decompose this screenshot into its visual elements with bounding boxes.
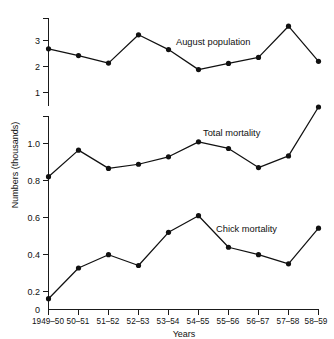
- y-tick-label-0-4: 0.4: [27, 250, 40, 260]
- data-point: [286, 153, 291, 158]
- data-point: [286, 261, 291, 266]
- data-point: [316, 59, 321, 64]
- data-point: [316, 104, 321, 109]
- annotation-total-mortality: Total mortality: [203, 128, 261, 138]
- data-point: [46, 46, 51, 51]
- x-tick-label-2: 51–52: [97, 317, 120, 326]
- y-tick-label-1: 1: [35, 88, 40, 98]
- data-point: [196, 213, 201, 218]
- august-population-markers: [46, 24, 321, 73]
- data-point: [196, 139, 201, 144]
- y-tick-label-3: 3: [35, 36, 40, 46]
- data-point: [166, 230, 171, 235]
- x-tick-label-3: 52–53: [127, 317, 150, 326]
- x-tick-labels: 1949–50 50–51 51–52 52–53 53–54 54–55 55…: [32, 317, 328, 326]
- x-tick-label-4: 53–54: [157, 317, 180, 326]
- data-point: [166, 47, 171, 52]
- x-axis-title: Years: [173, 329, 196, 339]
- y-tick-label-0-6: 0.6: [27, 213, 40, 223]
- y-tick-label-0-8: 0.8: [27, 176, 40, 186]
- x-tick-label-8: 57–58: [277, 317, 300, 326]
- data-point: [106, 61, 111, 66]
- data-point: [316, 226, 321, 231]
- data-point: [256, 165, 261, 170]
- data-point: [76, 265, 81, 270]
- x-axis-group: 1949–50 50–51 51–52 52–53 53–54 54–55 55…: [32, 310, 328, 339]
- data-point: [226, 146, 231, 151]
- series-total-mortality: [46, 104, 321, 179]
- line-chart-svg: 3 2 1 1.0 0.8 0.6 0.4 0.2 0: [0, 0, 334, 339]
- data-point: [286, 24, 291, 29]
- y-tick-label-0-2: 0.2: [27, 287, 40, 297]
- y-tick-label-1-0: 1.0: [27, 139, 40, 149]
- y-tick-label-2: 2: [35, 62, 40, 72]
- x-tick-label-1: 50–51: [67, 317, 90, 326]
- august-population-line: [49, 26, 319, 69]
- data-point: [46, 174, 51, 179]
- data-point: [136, 162, 141, 167]
- x-tick-label-7: 56–57: [247, 317, 270, 326]
- data-point: [226, 61, 231, 66]
- data-point: [136, 263, 141, 268]
- data-point: [76, 148, 81, 153]
- chick-mortality-line: [49, 216, 319, 299]
- total-mortality-line: [49, 107, 319, 177]
- series-chick-mortality: [46, 213, 321, 301]
- y-ticks-lower: 1.0 0.8 0.6 0.4 0.2 0: [27, 117, 48, 316]
- annotation-chick-mortality: Chick mortality: [216, 224, 277, 234]
- data-point: [136, 32, 141, 37]
- data-point: [226, 245, 231, 250]
- data-point: [196, 67, 201, 72]
- data-point: [46, 296, 51, 301]
- series-august-population: [46, 24, 321, 73]
- data-point: [106, 252, 111, 257]
- series-annotations: August population Total mortality Chick …: [176, 37, 277, 234]
- data-point: [76, 53, 81, 58]
- chick-mortality-markers: [46, 213, 321, 301]
- y-ticks-upper: 3 2 1: [35, 19, 49, 99]
- data-point: [256, 55, 261, 60]
- x-tick-label-0: 1949–50: [32, 317, 64, 326]
- total-mortality-markers: [46, 104, 321, 179]
- annotation-august-population: August population: [176, 37, 250, 47]
- x-tick-label-5: 54–55: [187, 317, 210, 326]
- data-point: [256, 252, 261, 257]
- x-ticks: [49, 310, 319, 316]
- data-point: [106, 166, 111, 171]
- y-tick-label-0: 0: [35, 305, 40, 315]
- y-axis-title: Numbers (thousands): [10, 122, 20, 209]
- x-tick-label-6: 55–56: [217, 317, 240, 326]
- chart-container: 3 2 1 1.0 0.8 0.6 0.4 0.2 0: [0, 0, 334, 339]
- x-tick-label-9: 58–59: [305, 317, 328, 326]
- data-point: [166, 154, 171, 159]
